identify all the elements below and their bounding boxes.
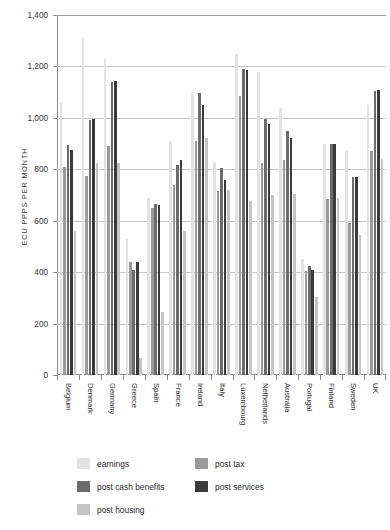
y-tick-label: 1,200 bbox=[0, 62, 48, 71]
x-tick-label: Spain bbox=[151, 383, 160, 402]
y-tick-label: 1,400 bbox=[0, 11, 48, 20]
legend-item-post-services: post services bbox=[195, 481, 264, 492]
bar bbox=[67, 145, 70, 375]
x-tick-label: Belgium bbox=[63, 383, 72, 410]
bar-group bbox=[123, 15, 145, 375]
bar bbox=[89, 120, 92, 375]
bar-group bbox=[189, 15, 211, 375]
x-tick-label: Netherlands bbox=[261, 383, 270, 424]
legend-item-post-housing: post housing bbox=[77, 504, 195, 515]
bar bbox=[261, 163, 264, 375]
bar bbox=[279, 108, 282, 375]
legend-label: post cash benefits bbox=[97, 482, 165, 492]
bar bbox=[70, 150, 73, 375]
bar bbox=[352, 177, 355, 375]
bar bbox=[202, 105, 205, 375]
bar bbox=[246, 70, 249, 375]
y-tick-mark bbox=[53, 66, 57, 67]
x-tick-label: Sweden bbox=[349, 383, 358, 410]
bar bbox=[293, 194, 296, 375]
x-tick-label: Portugal bbox=[305, 383, 314, 411]
bar-group bbox=[276, 15, 298, 375]
x-tick-mark bbox=[189, 375, 190, 380]
legend-label: post tax bbox=[215, 459, 244, 469]
y-axis-title: ECU PPPS PER MONTH bbox=[20, 117, 29, 277]
y-tick-mark bbox=[53, 169, 57, 170]
x-tick-cell bbox=[211, 375, 233, 380]
bar bbox=[374, 91, 377, 375]
y-tick-label: 0 bbox=[0, 371, 48, 380]
x-tick-mark bbox=[233, 375, 234, 380]
x-tick-label: Denmark bbox=[85, 383, 94, 414]
bar bbox=[180, 160, 183, 375]
bar bbox=[74, 231, 77, 375]
bar-group bbox=[254, 15, 276, 375]
bar bbox=[63, 167, 66, 375]
y-tick-mark bbox=[53, 221, 57, 222]
legend-label: earnings bbox=[97, 459, 129, 469]
x-tick-mark bbox=[342, 375, 343, 380]
bar bbox=[114, 81, 117, 375]
x-tick-mark bbox=[57, 375, 58, 380]
bar bbox=[355, 177, 358, 375]
bar bbox=[220, 168, 223, 375]
x-tick-cell bbox=[167, 375, 189, 380]
x-tick-label: Luxembourg bbox=[239, 383, 248, 425]
x-tick-mark bbox=[167, 375, 168, 380]
bar bbox=[213, 162, 216, 375]
x-tick-mark bbox=[145, 375, 146, 380]
x-axis-label-belgium: Belgium bbox=[57, 381, 79, 451]
legend-item-post-tax: post tax bbox=[195, 458, 244, 469]
bar-group bbox=[57, 15, 79, 375]
bar bbox=[60, 102, 63, 375]
y-tick-mark bbox=[53, 15, 57, 16]
bar bbox=[136, 262, 139, 375]
bar bbox=[377, 90, 380, 375]
bar bbox=[154, 204, 157, 375]
bar-group bbox=[364, 15, 386, 375]
bar-chart: ECU PPPS PER MONTH 1,4001,2001,000800600… bbox=[0, 0, 390, 530]
x-tick-cell bbox=[342, 375, 364, 380]
bar bbox=[268, 124, 271, 375]
bar bbox=[271, 195, 274, 375]
bar bbox=[348, 223, 351, 375]
x-tick-label: France bbox=[173, 383, 182, 407]
x-tick-label: Germany bbox=[107, 383, 116, 414]
legend-label: post services bbox=[215, 482, 264, 492]
bar-group bbox=[342, 15, 364, 375]
x-axis-label-uk: UK bbox=[364, 381, 386, 451]
x-tick-mark bbox=[320, 375, 321, 380]
bar bbox=[249, 201, 252, 375]
bar bbox=[117, 163, 120, 375]
bar-group bbox=[320, 15, 342, 375]
bar bbox=[323, 144, 326, 375]
bar bbox=[176, 165, 179, 375]
x-tick-cell bbox=[101, 375, 123, 380]
y-tick-mark bbox=[53, 118, 57, 119]
x-axis-label-australia: Australia bbox=[276, 381, 298, 451]
bar bbox=[301, 259, 304, 375]
bar bbox=[359, 235, 362, 375]
bar bbox=[139, 358, 142, 375]
y-tick-mark bbox=[53, 272, 57, 273]
y-tick-label: 800 bbox=[0, 165, 48, 174]
bar bbox=[151, 208, 154, 375]
bar bbox=[126, 239, 129, 375]
bar bbox=[315, 297, 318, 375]
x-tick-label: Greece bbox=[129, 383, 138, 408]
x-axis-label-spain: Spain bbox=[145, 381, 167, 451]
legend-swatch-icon bbox=[195, 458, 208, 469]
x-axis-label-portugal: Portugal bbox=[298, 381, 320, 451]
bar bbox=[305, 271, 308, 375]
x-tick-mark bbox=[385, 375, 386, 380]
bar bbox=[198, 93, 201, 375]
x-axis-label-germany: Germany bbox=[101, 381, 123, 451]
bar bbox=[183, 231, 186, 375]
legend-item-post-cash-benefits: post cash benefits bbox=[77, 481, 195, 492]
bar bbox=[205, 138, 208, 375]
bar bbox=[195, 141, 198, 375]
bar-group bbox=[79, 15, 101, 375]
y-tick-label: 400 bbox=[0, 268, 48, 277]
x-tick-cell bbox=[364, 375, 386, 380]
y-tick-label: 1,000 bbox=[0, 113, 48, 122]
